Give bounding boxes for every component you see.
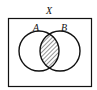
set-b-label: B [61,22,67,33]
venn-diagram: X A B [0,0,97,90]
universal-set-label: X [45,5,53,16]
set-a-label: A [32,22,40,33]
